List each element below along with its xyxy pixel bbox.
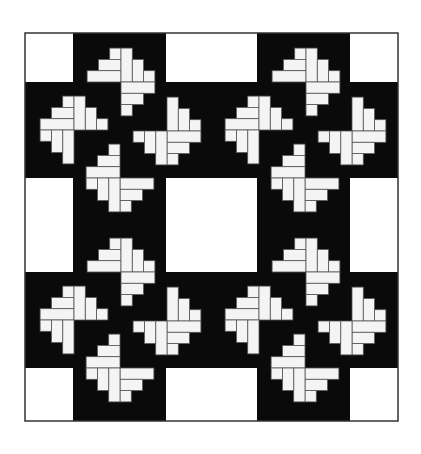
motif-bar xyxy=(306,295,317,306)
motif-bar xyxy=(121,105,132,116)
motif-bar xyxy=(120,379,143,390)
motif-bar xyxy=(110,238,121,249)
motif-bar xyxy=(40,119,74,130)
motif-bar xyxy=(97,119,108,130)
motif-bar xyxy=(85,107,96,130)
white-square xyxy=(350,33,398,82)
motif-bar xyxy=(63,320,74,354)
motif-bar xyxy=(259,96,270,130)
motif-bar xyxy=(87,71,121,82)
white-square xyxy=(350,178,398,272)
motif-bar xyxy=(98,249,121,260)
motif-bar xyxy=(295,48,306,59)
motif-bar xyxy=(225,309,259,320)
motif-bar xyxy=(329,131,340,154)
motif-bar xyxy=(74,96,85,130)
motif-bar xyxy=(167,142,190,153)
motif-bar xyxy=(352,154,363,165)
motif-bar xyxy=(86,178,97,189)
motif-bar xyxy=(86,357,120,368)
motif-bar xyxy=(283,249,306,260)
motif-bar xyxy=(74,286,85,320)
motif-bar xyxy=(305,379,328,390)
motif-bar xyxy=(133,131,144,142)
motif-bar xyxy=(190,310,201,321)
white-square xyxy=(25,368,73,421)
motif-bar xyxy=(375,310,386,321)
motif-bar xyxy=(282,368,293,391)
motif-bar xyxy=(97,309,108,320)
white-square xyxy=(350,368,398,421)
motif-bar xyxy=(305,368,339,379)
motif-bar xyxy=(352,142,375,153)
motif-bar xyxy=(305,189,328,200)
motif-bar xyxy=(132,59,143,82)
motif-bar xyxy=(51,130,62,153)
motif-bar xyxy=(341,131,352,165)
motif-bar xyxy=(272,261,306,272)
motif-bar xyxy=(248,320,259,354)
motif-bar xyxy=(306,238,317,272)
motif-bar xyxy=(294,334,305,345)
motif-bar xyxy=(352,287,363,321)
motif-bar xyxy=(306,272,340,283)
quilt-canvas xyxy=(0,0,421,454)
quilt-figure: Pinwheel log-cabin quilt pattern xyxy=(0,0,421,454)
motif-bar xyxy=(271,178,282,189)
motif-bar xyxy=(144,321,155,344)
motif-bar xyxy=(132,249,143,272)
motif-bar xyxy=(363,108,374,131)
motif-bar xyxy=(51,297,74,308)
motif-bar xyxy=(271,357,305,368)
motif-bar xyxy=(352,131,386,142)
motif-bar xyxy=(167,131,201,142)
motif-bar xyxy=(121,93,144,104)
motif-bar xyxy=(329,321,340,344)
motif-bar xyxy=(225,320,236,331)
motif-bar xyxy=(98,59,121,70)
motif-bar xyxy=(295,238,306,249)
motif-bar xyxy=(156,131,167,165)
motif-bar xyxy=(109,334,120,345)
motif-bar xyxy=(306,82,340,93)
motif-bar xyxy=(190,120,201,131)
motif-bar xyxy=(85,297,96,320)
motif-bar xyxy=(259,286,270,320)
motif-bar xyxy=(97,178,108,201)
motif-bar xyxy=(144,71,155,82)
motif-bar xyxy=(121,283,144,294)
motif-bar xyxy=(167,332,190,343)
motif-bar xyxy=(121,295,132,306)
motif-bar xyxy=(352,332,375,343)
motif-bar xyxy=(40,320,51,331)
motif-bar xyxy=(63,286,74,297)
motif-bar xyxy=(86,167,120,178)
motif-bar xyxy=(121,238,132,272)
motif-bar xyxy=(121,272,155,283)
motif-bar xyxy=(329,71,340,82)
motif-bar xyxy=(178,108,189,131)
motif-bar xyxy=(248,130,259,164)
motif-bar xyxy=(110,48,121,59)
motif-bar xyxy=(306,93,329,104)
motif-bar xyxy=(248,96,259,107)
motif-bar xyxy=(178,298,189,321)
motif-bar xyxy=(51,320,62,343)
motif-bar xyxy=(270,107,281,130)
motif-bar xyxy=(306,48,317,82)
motif-bar xyxy=(144,131,155,154)
motif-bar xyxy=(86,368,97,379)
motif-bar xyxy=(120,391,131,402)
white-square xyxy=(166,33,257,82)
motif-bar xyxy=(97,368,108,391)
motif-bar xyxy=(306,105,317,116)
motif-bar xyxy=(51,107,74,118)
motif-bar xyxy=(120,189,143,200)
motif-bar xyxy=(156,321,167,355)
motif-bar xyxy=(272,71,306,82)
motif-bar xyxy=(270,297,281,320)
motif-bar xyxy=(305,391,316,402)
motif-bar xyxy=(317,249,328,272)
motif-bar xyxy=(40,309,74,320)
motif-bar xyxy=(317,59,328,82)
